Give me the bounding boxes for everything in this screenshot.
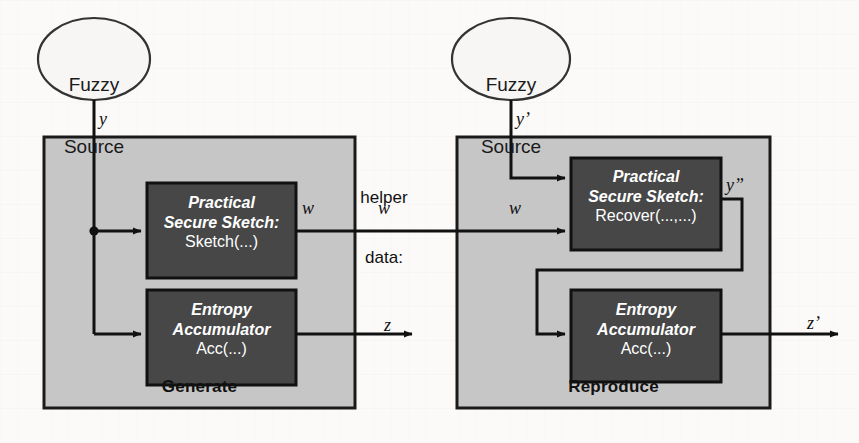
block-generate-secure-sketch-label: Practical Secure Sketch: Sketch(...) — [147, 193, 296, 253]
generate-sketch-line2: Secure Sketch: — [147, 213, 296, 233]
source-left-line1: Fuzzy — [44, 75, 144, 96]
signal-y-double-prime: y” — [726, 176, 744, 195]
generate-acc-line2: Accumulator — [147, 320, 296, 340]
block-generate-entropy-accumulator-label: Entropy Accumulator Acc(...) — [147, 300, 296, 360]
signal-y: y — [99, 110, 107, 129]
reproduce-sketch-line1: Practical — [571, 167, 721, 187]
reproduce-acc-line2: Accumulator — [571, 320, 721, 340]
signal-z: z — [384, 316, 391, 335]
signal-z-prime: z’ — [807, 314, 820, 333]
source-right-line1: Fuzzy — [461, 75, 561, 96]
panel-reproduce-title: Reproduce — [457, 378, 770, 396]
block-reproduce-entropy-accumulator-label: Entropy Accumulator Acc(...) — [571, 300, 721, 360]
generate-sketch-line1: Practical — [147, 193, 296, 213]
reproduce-sketch-line2: Secure Sketch: — [571, 187, 721, 207]
signal-w-reproduce-in: w — [509, 199, 521, 218]
generate-acc-call: Acc(...) — [147, 339, 296, 360]
helper-data-label: helper data: — [338, 148, 430, 308]
source-left-label: Fuzzy Source — [44, 34, 144, 198]
block-reproduce-secure-sketch-label: Practical Secure Sketch: Recover(...,...… — [571, 167, 721, 227]
diagram-canvas: Fuzzy Source Fuzzy Source Practical Secu… — [0, 0, 859, 443]
source-left-line2: Source — [44, 137, 144, 158]
reproduce-acc-line1: Entropy — [571, 300, 721, 320]
signal-y-prime: y’ — [516, 110, 530, 129]
reproduce-acc-call: Acc(...) — [571, 339, 721, 360]
signal-w-channel: w — [378, 199, 390, 218]
generate-acc-line1: Entropy — [147, 300, 296, 320]
generate-sketch-call: Sketch(...) — [147, 232, 296, 253]
helper-data-line2: data: — [338, 248, 430, 268]
signal-w-generate-out: w — [302, 199, 314, 218]
reproduce-sketch-call: Recover(...,...) — [571, 206, 721, 227]
source-right-label: Fuzzy Source — [461, 34, 561, 198]
panel-generate-title: Generate — [44, 378, 355, 396]
source-right-line2: Source — [461, 137, 561, 158]
